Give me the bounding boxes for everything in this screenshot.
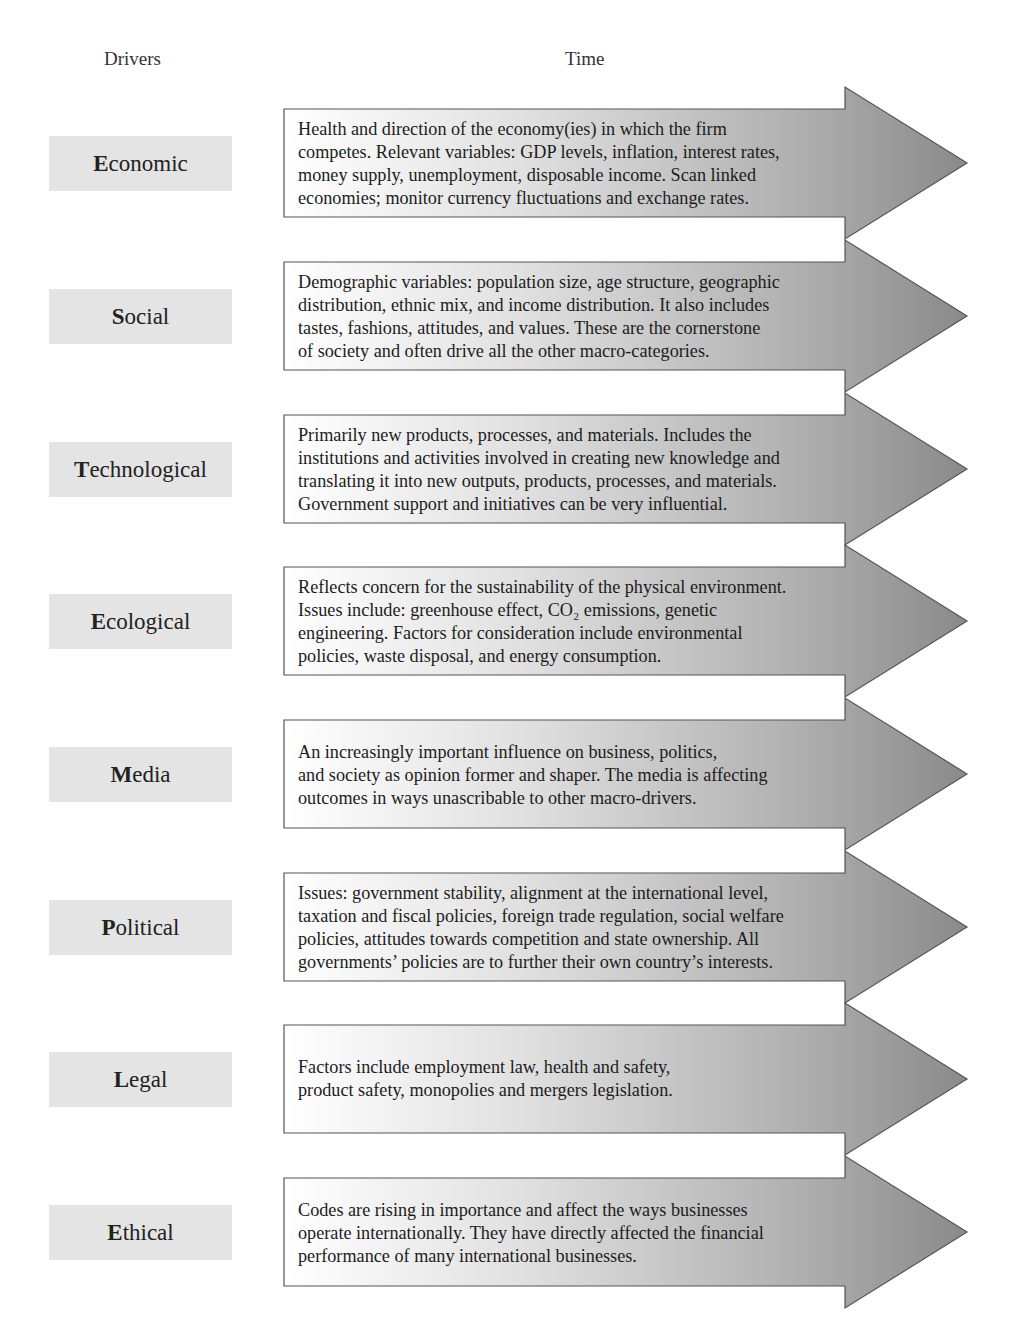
driver-label-rest: olitical bbox=[116, 915, 180, 941]
driver-row-technological: Technological Primarily new products, pr… bbox=[0, 388, 1013, 558]
driver-label-technological: Technological bbox=[49, 442, 232, 497]
column-header-time: Time bbox=[565, 48, 604, 70]
driver-row-ecological: Ecological Reflects concern for the sust… bbox=[0, 540, 1013, 710]
driver-label-ethical: Ethical bbox=[49, 1205, 232, 1260]
driver-initial: M bbox=[110, 762, 132, 788]
driver-description-social: Demographic variables: population size, … bbox=[298, 271, 898, 363]
driver-label-political: Political bbox=[49, 900, 232, 955]
driver-label-rest: echnological bbox=[89, 457, 207, 483]
driver-initial: T bbox=[74, 457, 89, 483]
driver-initial: L bbox=[114, 1067, 129, 1093]
driver-row-political: Political Issues: government stability, … bbox=[0, 846, 1013, 1016]
driver-description-ethical: Codes are rising in importance and affec… bbox=[298, 1199, 898, 1268]
driver-label-rest: thical bbox=[123, 1220, 174, 1246]
driver-row-legal: Legal Factors include employment law, he… bbox=[0, 998, 1013, 1168]
driver-label-rest: ocial bbox=[125, 304, 170, 330]
driver-initial: P bbox=[102, 915, 116, 941]
driver-description-legal: Factors include employment law, health a… bbox=[298, 1056, 898, 1102]
driver-description-technological: Primarily new products, processes, and m… bbox=[298, 424, 898, 516]
driver-initial: E bbox=[107, 1220, 122, 1246]
driver-description-political: Issues: government stability, alignment … bbox=[298, 882, 898, 974]
driver-row-social: Social Demographic variables: population… bbox=[0, 235, 1013, 405]
column-header-drivers: Drivers bbox=[104, 48, 161, 70]
driver-label-rest: cological bbox=[106, 609, 190, 635]
driver-label-economic: Economic bbox=[49, 136, 232, 191]
driver-row-media: Media An increasingly important influenc… bbox=[0, 693, 1013, 863]
driver-description-ecological: Reflects concern for the sustainability … bbox=[298, 576, 898, 668]
driver-label-rest: edia bbox=[132, 762, 170, 788]
driver-label-rest: egal bbox=[129, 1067, 167, 1093]
driver-initial: E bbox=[91, 609, 106, 635]
driver-row-ethical: Ethical Codes are rising in importance a… bbox=[0, 1151, 1013, 1321]
driver-initial: S bbox=[112, 304, 125, 330]
driver-initial: E bbox=[93, 151, 108, 177]
driver-label-social: Social bbox=[49, 289, 232, 344]
driver-description-economic: Health and direction of the economy(ies)… bbox=[298, 118, 898, 210]
driver-label-media: Media bbox=[49, 747, 232, 802]
driver-row-economic: Economic Health and direction of the eco… bbox=[0, 82, 1013, 252]
driver-label-ecological: Ecological bbox=[49, 594, 232, 649]
driver-label-rest: conomic bbox=[109, 151, 188, 177]
driver-label-legal: Legal bbox=[49, 1052, 232, 1107]
driver-description-media: An increasingly important influence on b… bbox=[298, 741, 898, 810]
